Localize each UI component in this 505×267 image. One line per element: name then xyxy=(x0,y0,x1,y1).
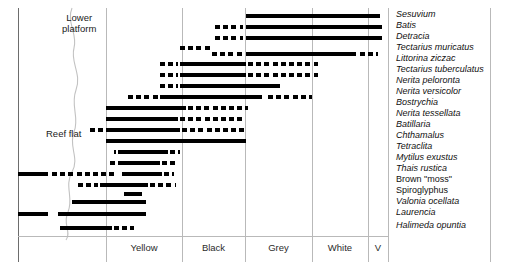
bar-segment-dashed xyxy=(160,62,165,66)
bar-segment-solid xyxy=(180,62,246,66)
bar-segment-dashed xyxy=(136,95,141,99)
bar-segment-dashed xyxy=(293,95,298,99)
species-label: Tetraclita xyxy=(396,141,432,151)
zone-label-grey: Grey xyxy=(245,242,312,253)
species-label: Batillaria xyxy=(396,119,431,129)
bar-segment-dashed xyxy=(264,62,269,66)
bar-segment-dashed xyxy=(90,128,95,132)
bar-segment-dashed xyxy=(305,62,310,66)
species-label: Halimeda opuntia xyxy=(396,220,466,230)
zone-label-yellow: Yellow xyxy=(106,242,182,253)
bar-segment-dashed xyxy=(248,62,253,66)
bar-segment-dashed xyxy=(297,73,302,77)
bar-segment-dashed xyxy=(213,106,218,110)
bar-segment-dashed xyxy=(215,25,220,29)
bar-segment-dashed xyxy=(228,52,233,56)
bar-segment-dashed xyxy=(221,117,226,121)
bar-segment-dashed xyxy=(114,226,119,230)
species-label: Mytilus exustus xyxy=(396,152,458,162)
bar-segment-dashed xyxy=(213,117,218,121)
bar-segment-dashed xyxy=(223,36,228,40)
bar-segment-dashed xyxy=(205,46,210,50)
bar-segment-dashed xyxy=(68,172,73,176)
bar-segment-dashed xyxy=(237,106,242,110)
bar-segment-dashed xyxy=(281,62,286,66)
bar-segment-dashed xyxy=(188,46,193,50)
bar-segment-dashed xyxy=(198,128,203,132)
species-label: Batis xyxy=(396,20,416,30)
bar-segment-dashed xyxy=(298,52,303,56)
bar-segment-dashed xyxy=(305,73,310,77)
bar-segment-solid xyxy=(106,106,186,110)
bar-segment-dashed xyxy=(264,73,269,77)
bar-segment-solid xyxy=(58,212,146,216)
bar-segment-dashed xyxy=(130,226,134,230)
bar-segment-dashed xyxy=(52,172,57,176)
bar-segment-dashed xyxy=(86,183,91,187)
bar-segment-dashed xyxy=(168,62,173,66)
region-label-reef-flat: Reef flat xyxy=(46,128,81,139)
bar-segment-dashed xyxy=(101,172,106,176)
bar-segment-dashed xyxy=(196,117,201,121)
bar-segment-dashed xyxy=(144,95,149,99)
bar-segment-dashed xyxy=(109,172,114,176)
region-label-lower-platform: Lowerplatform xyxy=(62,12,96,34)
species-label: Littorina ziczac xyxy=(396,53,456,63)
species-label: Brown "moss" xyxy=(396,174,452,184)
bar-segment-dashed xyxy=(281,73,286,77)
bar-segment-dashed xyxy=(245,106,248,110)
bar-segment-dashed xyxy=(178,150,180,154)
bar-segment-dashed xyxy=(122,226,127,230)
bar-segment-solid xyxy=(18,172,48,176)
bar-segment-dashed xyxy=(94,183,98,187)
bar-segment-dashed xyxy=(256,73,261,77)
bar-segment-solid xyxy=(122,172,162,176)
bar-segment-dashed xyxy=(190,128,195,132)
bar-segment-dashed xyxy=(256,62,261,66)
bar-segment-solid xyxy=(180,84,280,88)
bar-segment-dashed xyxy=(237,52,242,56)
bar-segment-dashed xyxy=(180,117,185,121)
bar-segment-dashed xyxy=(268,95,273,99)
bar-segment-dashed xyxy=(196,106,201,110)
bar-segment-dashed xyxy=(231,25,236,29)
bar-segment-solid xyxy=(118,161,160,165)
bar-segment-dashed xyxy=(176,84,178,88)
bar-segment-dashed xyxy=(128,95,133,99)
bar-segment-dashed xyxy=(205,117,210,121)
bar-segment-dashed xyxy=(175,183,176,187)
bar-segment-dashed xyxy=(180,46,185,50)
species-label: Thais rustica xyxy=(396,163,447,173)
bar-segment-dashed xyxy=(60,172,65,176)
bar-segment-dashed xyxy=(229,106,234,110)
bar-segment-dashed xyxy=(276,95,281,99)
species-label: Bostrychia xyxy=(396,97,438,107)
bar-segment-dashed xyxy=(162,161,167,165)
bar-segment-dashed xyxy=(323,52,328,56)
species-label: Valonia ocellata xyxy=(396,196,459,206)
bar-segment-solid xyxy=(72,200,146,204)
species-label: Nerita peloronta xyxy=(396,75,460,85)
bar-segment-solid xyxy=(160,95,262,99)
bar-segment-dashed xyxy=(170,150,175,154)
bar-segment-dashed xyxy=(160,73,165,77)
bar-segment-dashed xyxy=(315,52,320,56)
axis-baseline xyxy=(18,236,388,237)
species-label: Nerita tessellata xyxy=(396,108,461,118)
zone-label-v: V xyxy=(368,242,388,253)
bar-segment-dashed xyxy=(158,183,163,187)
bar-segment-dashed xyxy=(78,183,83,187)
bar-segment-solid xyxy=(246,14,380,18)
species-label: Sesuvium xyxy=(396,9,436,19)
bar-segment-solid xyxy=(124,192,142,196)
bar-segment-dashed xyxy=(239,128,244,132)
bar-segment-dashed xyxy=(289,73,294,77)
species-label: Laurencia xyxy=(396,207,436,217)
bar-segment-dashed xyxy=(93,172,98,176)
bar-segment-dashed xyxy=(273,62,278,66)
bar-segment-dashed xyxy=(212,52,217,56)
bar-segment-dashed xyxy=(314,62,318,66)
bar-segment-dashed xyxy=(220,52,225,56)
bar-segment-dashed xyxy=(215,128,220,132)
bar-segment-dashed xyxy=(240,36,243,40)
